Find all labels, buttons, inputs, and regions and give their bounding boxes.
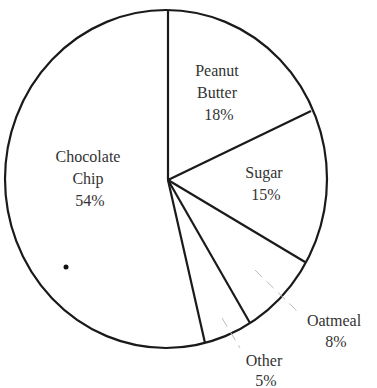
label-oatmeal: Oatmeal 8%: [307, 312, 365, 350]
marker-dot: [64, 265, 69, 270]
pie-chart: Peanut Butter 18% Sugar 15% Chocolate Ch…: [0, 0, 377, 388]
label-other: Other 5%: [246, 352, 286, 388]
